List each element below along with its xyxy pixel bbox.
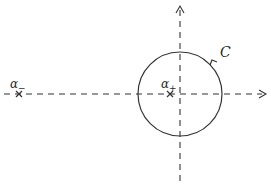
alpha-plus-subscript: +	[169, 83, 177, 93]
contour-diagram: C α − α +	[0, 0, 271, 188]
alpha-minus-symbol: α	[10, 77, 18, 91]
orientation-arrow-icon	[210, 60, 217, 65]
alpha-plus-symbol: α	[161, 77, 169, 91]
contour-label: C	[220, 44, 231, 60]
alpha-minus-subscript: −	[18, 83, 26, 93]
